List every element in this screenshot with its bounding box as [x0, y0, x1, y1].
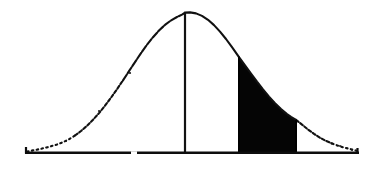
- distribution-chart-canvas: [0, 0, 374, 176]
- scan-speck: [129, 72, 131, 74]
- bell-curve-right-upper-slope: [185, 12, 239, 57]
- normal-distribution-figure: [0, 0, 374, 176]
- bell-curve-right-mid-tail: [296, 120, 332, 144]
- bell-curve-right-far-tail: [332, 144, 357, 151]
- scan-speck: [98, 110, 100, 112]
- scan-speck: [65, 140, 67, 142]
- bell-curve-left-upper-slope: [123, 13, 185, 81]
- scan-speck: [351, 149, 353, 151]
- bell-curve-left-mid-slope: [75, 80, 123, 135]
- scan-speck: [339, 145, 341, 147]
- shaded-tail-area: [239, 57, 296, 152]
- bell-curve-left-far-tail: [27, 136, 75, 152]
